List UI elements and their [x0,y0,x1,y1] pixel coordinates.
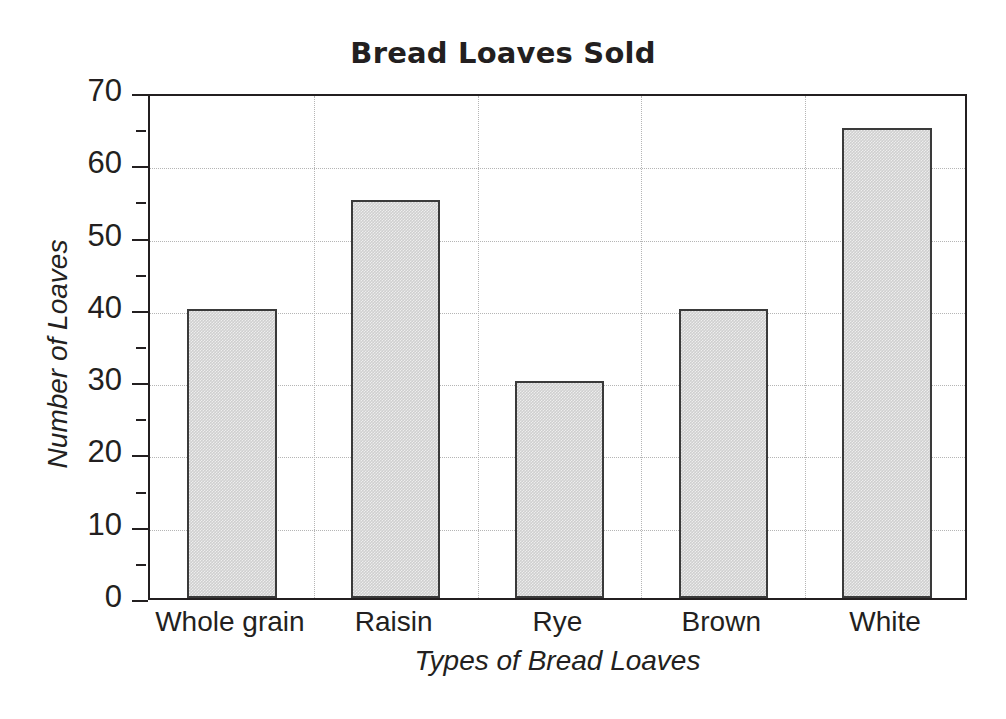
y-tick-label: 0 [40,579,122,615]
y-tick-minor [136,419,146,421]
bar-raisin [351,200,440,598]
plot-area [148,94,967,600]
y-tick-major [132,239,148,241]
y-tick-minor [136,564,146,566]
x-axis-title: Types of Bread Loaves [148,645,967,677]
y-tick-label: 40 [40,290,122,326]
y-axis-title: Number of Loaves [42,144,74,564]
bar-whole-grain [187,309,276,598]
gridline-vertical [314,96,315,598]
y-tick-label: 30 [40,362,122,398]
gridline-vertical [805,96,806,598]
x-tick-label: Whole grain [148,606,312,638]
x-tick-label: Raisin [312,606,476,638]
y-tick-major [132,600,148,602]
x-tick-label: White [803,606,967,638]
y-tick-minor [136,275,146,277]
bar-brown [679,309,768,598]
bar-rye [515,381,604,598]
gridline-vertical [478,96,479,598]
y-tick-major [132,383,148,385]
y-tick-label: 60 [40,145,122,181]
y-tick-label: 70 [40,73,122,109]
y-tick-major [132,166,148,168]
y-tick-label: 10 [40,507,122,543]
gridline-vertical [641,96,642,598]
y-tick-major [132,311,148,313]
y-tick-major [132,528,148,530]
y-tick-label: 50 [40,218,122,254]
x-tick-label: Rye [476,606,640,638]
y-tick-major [132,455,148,457]
y-tick-minor [136,130,146,132]
bar-chart-figure: Bread Loaves Sold Number of Loaves Types… [0,0,1006,719]
chart-title: Bread Loaves Sold [0,36,1006,70]
bar-white [842,128,931,598]
y-tick-minor [136,347,146,349]
y-tick-minor [136,492,146,494]
y-tick-major [132,94,148,96]
y-tick-minor [136,202,146,204]
y-tick-label: 20 [40,434,122,470]
x-tick-label: Brown [639,606,803,638]
